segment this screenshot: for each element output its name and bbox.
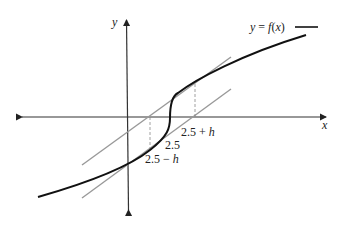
- legend-label: y = f(x): [249, 20, 285, 34]
- y-axis: [127, 20, 129, 210]
- tick-label-minus-h: 2.5 − h: [145, 152, 179, 166]
- function-curve: [38, 35, 306, 197]
- function-graph: y = f(x) y x 2.5 + h 2.5 2.5 − h: [0, 0, 341, 226]
- x-axis-label: x: [321, 118, 328, 132]
- tick-label-plus-h: 2.5 + h: [181, 125, 215, 139]
- y-axis-label: y: [111, 15, 118, 29]
- tick-label-center: 2.5: [165, 138, 180, 152]
